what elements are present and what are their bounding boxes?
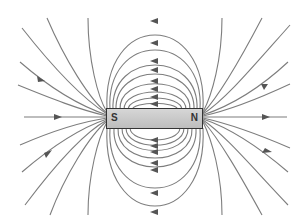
north-pole-label: N: [191, 112, 198, 123]
bar-magnet: S N: [106, 108, 203, 129]
magnetic-field-diagram: S N: [0, 0, 307, 222]
south-pole-label: S: [111, 112, 118, 123]
